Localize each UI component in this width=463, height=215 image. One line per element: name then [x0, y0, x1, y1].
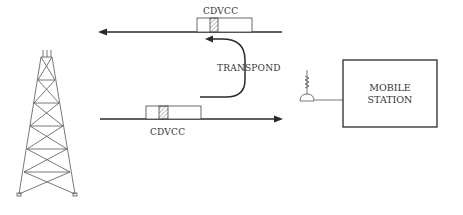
reverse-channel-label: CDVCC: [150, 127, 185, 137]
mobile-station-line1: MOBILE: [368, 82, 413, 94]
reverse-cdvcc-packet: [146, 106, 201, 119]
mobile-station-label: MOBILE STATION: [343, 60, 437, 127]
mobile-station-line2: STATION: [368, 94, 413, 106]
forward-channel-arrow: [98, 29, 282, 36]
forward-channel-label: CDVCC: [203, 6, 238, 16]
antenna-icon: [300, 70, 343, 101]
forward-cdvcc-packet: [197, 18, 252, 32]
radio-tower-icon: [17, 50, 77, 196]
transpond-label: TRANSPOND: [217, 63, 281, 73]
